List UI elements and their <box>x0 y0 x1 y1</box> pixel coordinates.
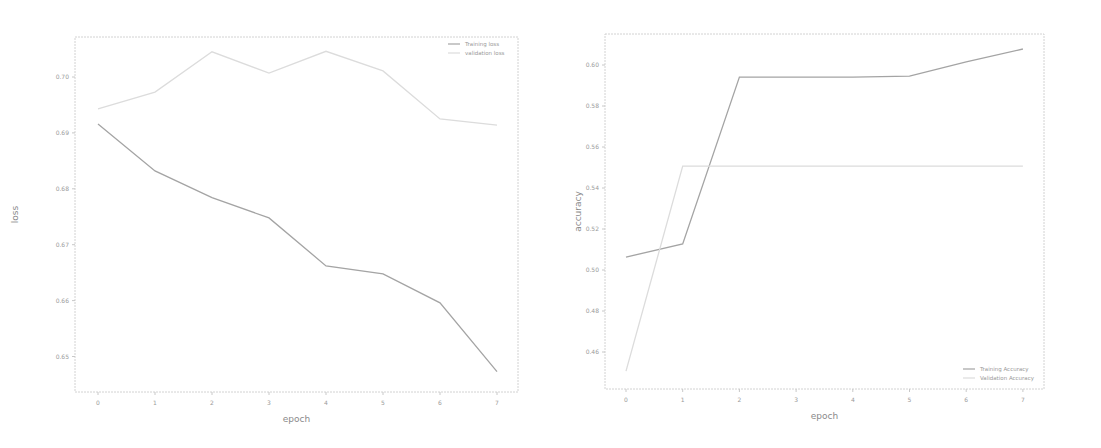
y-tick-label: 0.58 <box>586 102 600 109</box>
x-tick-label: 3 <box>794 396 798 403</box>
validation-series-line <box>98 51 497 125</box>
x-tick-label: 2 <box>737 396 741 403</box>
y-axis-label: loss <box>10 205 20 223</box>
training-series-line <box>98 124 497 372</box>
legend: Training lossvalidation loss <box>448 41 505 56</box>
y-tick-label: 0.66 <box>56 297 70 304</box>
legend-label: Validation Accuracy <box>980 375 1035 382</box>
y-axis-label: accuracy <box>573 191 583 232</box>
x-tick-label: 6 <box>964 396 968 403</box>
x-tick-label: 0 <box>624 396 628 403</box>
y-tick-label: 0.56 <box>586 143 600 150</box>
x-tick-label: 7 <box>495 399 499 406</box>
x-axis-label: epoch <box>811 411 838 421</box>
legend-label: validation loss <box>465 50 505 56</box>
plot-frame <box>75 37 518 392</box>
y-tick-label: 0.50 <box>586 266 600 273</box>
y-tick-label: 0.46 <box>586 348 600 355</box>
x-tick-label: 0 <box>96 399 100 406</box>
x-tick-label: 1 <box>153 399 157 406</box>
y-tick-label: 0.68 <box>56 185 70 192</box>
y-tick-label: 0.54 <box>586 184 600 191</box>
y-tick-label: 0.48 <box>586 307 600 314</box>
training-series-line <box>626 49 1023 257</box>
x-axis-label: epoch <box>283 414 310 424</box>
y-tick-label: 0.70 <box>56 73 70 80</box>
x-tick-label: 7 <box>1021 396 1025 403</box>
charts-canvas: 012345670.700.690.680.670.660.65epochlos… <box>0 0 1101 448</box>
x-tick-label: 4 <box>851 396 855 403</box>
plot-frame <box>605 34 1044 389</box>
x-tick-label: 6 <box>438 399 442 406</box>
y-tick-label: 0.60 <box>586 61 600 68</box>
loss-chart: 012345670.700.690.680.670.660.65epochlos… <box>10 37 518 424</box>
legend: Training AccuracyValidation Accuracy <box>963 366 1035 382</box>
y-tick-label: 0.67 <box>56 241 70 248</box>
validation-series-line <box>626 166 1023 371</box>
legend-label: Training loss <box>464 41 499 48</box>
y-tick-label: 0.65 <box>56 353 70 360</box>
x-tick-label: 5 <box>381 399 385 406</box>
x-tick-label: 2 <box>210 399 214 406</box>
y-tick-label: 0.52 <box>586 225 600 232</box>
legend-label: Training Accuracy <box>979 366 1029 373</box>
x-tick-label: 3 <box>267 399 271 406</box>
accuracy-chart: 012345670.600.580.560.540.520.500.480.46… <box>573 34 1044 421</box>
x-tick-label: 1 <box>681 396 685 403</box>
x-tick-label: 5 <box>908 396 912 403</box>
y-tick-label: 0.69 <box>56 129 70 136</box>
x-tick-label: 4 <box>324 399 328 406</box>
